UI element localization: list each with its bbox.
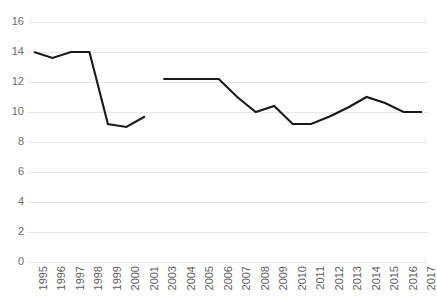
x-axis-tick-label: 2000 [130,266,141,290]
x-axis-tick-label: 2017 [426,266,437,290]
x-axis-tick-label: 2012 [334,266,345,290]
x-axis-tick-label: 2011 [315,266,326,290]
x-axis-tick-label: 1996 [56,266,67,290]
x-axis-tick-label: 2005 [204,266,215,290]
x-axis-tick-label: 2009 [278,266,289,290]
x-axis-tick-label: 2004 [186,266,197,290]
x-axis-tick-label: 1999 [112,266,123,290]
x-axis-tick-label: 2001 [149,266,160,290]
series-line-segment-2003-2017 [163,79,422,124]
x-axis-tick-label: 2013 [352,266,363,290]
x-axis-tick-label: 1995 [38,266,49,290]
series-line-segment-1995-2001 [34,52,145,127]
x-axis-tick-label: 2015 [389,266,400,290]
x-axis-tick-label: 2006 [223,266,234,290]
x-axis: 1995199619971998199920002001200320042005… [28,266,428,308]
x-axis-tick-label: 2008 [260,266,271,290]
x-axis-tick-label: 2003 [167,266,178,290]
x-axis-tick-label: 2014 [371,266,382,290]
x-axis-tick-label: 2016 [408,266,419,290]
x-axis-tick-label: 1997 [75,266,86,290]
x-axis-tick-label: 2007 [241,266,252,290]
x-axis-tick-label: 1998 [93,266,104,290]
x-axis-tick-label: 2010 [297,266,308,290]
